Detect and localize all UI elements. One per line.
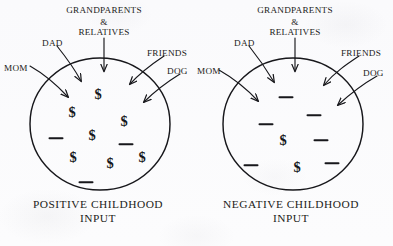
label-dad: DAD (234, 38, 255, 49)
figure-canvas: MOM DAD GRANDPARENTS & RELATIVES FRIENDS… (0, 0, 393, 246)
mom-arrow (30, 66, 68, 97)
label-relatives: RELATIVES (58, 27, 150, 38)
money-token: $ (138, 150, 145, 165)
dog-arrow (338, 76, 377, 105)
dash-token (307, 114, 322, 116)
dash-token (244, 164, 259, 166)
money-token: $ (293, 160, 300, 175)
dash-token (259, 123, 274, 125)
money-token: $ (68, 105, 75, 120)
label-dad: DAD (42, 38, 63, 49)
money-token: $ (69, 150, 76, 165)
money-token: $ (279, 133, 286, 148)
dad-arrow (57, 46, 81, 81)
panel-negative-childhood-input: MOM DAD GRANDPARENTS & RELATIVES FRIENDS… (197, 0, 393, 246)
dash-token (79, 181, 94, 183)
label-mom: MOM (4, 63, 28, 74)
caption-positive-line1: POSITIVE CHILDHOOD (33, 198, 163, 210)
label-grandparents: GRANDPARENTS (58, 5, 150, 16)
dash-token (279, 96, 294, 98)
dad-arrow (249, 46, 274, 82)
dash-token (49, 137, 64, 139)
panel-positive-childhood-input: MOM DAD GRANDPARENTS & RELATIVES FRIENDS… (0, 0, 196, 246)
caption-negative: NEGATIVE CHILDHOOD INPUT (193, 198, 389, 226)
label-relatives: RELATIVES (249, 27, 341, 38)
dash-token (325, 162, 340, 164)
caption-negative-line2: INPUT (193, 212, 389, 226)
money-token: $ (120, 114, 127, 129)
money-token: $ (88, 128, 95, 143)
friends-arrow (130, 56, 164, 84)
money-token: $ (94, 87, 101, 102)
label-grandparents: GRANDPARENTS (249, 5, 341, 16)
label-dog: DOG (363, 68, 384, 79)
mom-arrow (219, 70, 258, 101)
positive-circle-outline (30, 58, 170, 190)
dash-token (314, 139, 329, 141)
caption-positive: POSITIVE CHILDHOOD INPUT (0, 198, 196, 226)
caption-positive-line2: INPUT (0, 212, 196, 226)
label-dog: DOG (167, 66, 188, 77)
friends-arrow (324, 56, 359, 85)
label-mom: MOM (197, 66, 221, 77)
label-friends: FRIENDS (147, 48, 187, 59)
caption-negative-line1: NEGATIVE CHILDHOOD (223, 198, 359, 210)
money-token: $ (106, 156, 113, 171)
dash-token (119, 143, 134, 145)
label-friends: FRIENDS (341, 48, 381, 59)
